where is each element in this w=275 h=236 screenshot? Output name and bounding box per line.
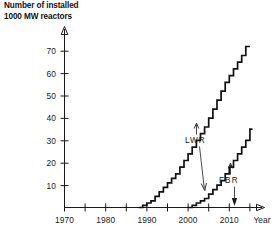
- x-tick-label-2000: 2000: [179, 215, 198, 225]
- chart-title-line-1: Number of installed: [4, 1, 79, 10]
- series-label-fbr: FBR: [219, 176, 239, 185]
- reactor-growth-chart: Number of installed 1000 MW reactors 10 …: [0, 0, 275, 236]
- y-tick-label-60: 60: [46, 69, 56, 79]
- x-tick-label-2010: 2010: [220, 215, 239, 225]
- y-tick-label-70: 70: [46, 46, 56, 56]
- y-tick-label-20: 20: [46, 158, 56, 168]
- y-tick-label-40: 40: [46, 113, 56, 123]
- y-axis: [61, 27, 68, 208]
- horizon-marker-arrow: [232, 187, 237, 207]
- x-tick-label-1990: 1990: [137, 215, 156, 225]
- y-tick-label-10: 10: [46, 181, 56, 191]
- y-tick-label-50: 50: [46, 91, 56, 101]
- chart-title: Number of installed 1000 MW reactors: [4, 1, 79, 22]
- x-axis-title: Year: [254, 215, 271, 225]
- chart-title-line-2: 1000 MW reactors: [4, 12, 72, 21]
- x-tick-label-1980: 1980: [96, 215, 115, 225]
- y-axis-tick-labels: 10 20 30 40 50 60 70: [46, 46, 56, 190]
- y-tick-label-30: 30: [46, 136, 56, 146]
- series-label-lwr: LWR: [185, 136, 206, 145]
- x-axis-tick-labels: 1970 1980 1990 2000 2010 Year: [55, 215, 271, 225]
- chart-canvas: 10 20 30 40 50 60 70 1970 1980 1990 2000…: [0, 0, 275, 236]
- x-tick-label-1970: 1970: [55, 215, 74, 225]
